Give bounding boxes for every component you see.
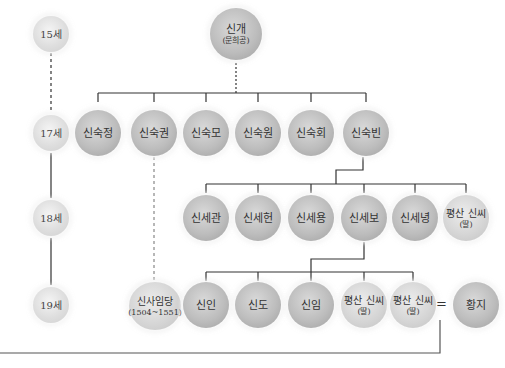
person-name: 신세헌 bbox=[243, 212, 273, 225]
family-tree-diagram: 15세 17세 18세 19세 신개 (문희공) 신숙정 신숙권 신숙모 신숙원… bbox=[0, 0, 505, 368]
generation-18: 18세 bbox=[33, 200, 69, 236]
person-name: 신숙원 bbox=[243, 127, 273, 140]
person-gen17: 신숙모 bbox=[183, 110, 229, 156]
person-name: 신숙회 bbox=[296, 127, 326, 140]
person-name: 신세녕 bbox=[400, 212, 430, 225]
person-name: 황지 bbox=[466, 299, 486, 312]
person-gen18-daughter: 평산 신씨 (딸) bbox=[443, 195, 489, 241]
person-note: (딸) bbox=[357, 307, 370, 317]
person-name: 신개 bbox=[226, 23, 246, 36]
person-note: (문희공) bbox=[222, 36, 249, 46]
person-name: 신세보 bbox=[349, 212, 379, 225]
person-gen19: 신인 bbox=[183, 282, 229, 328]
generation-19: 19세 bbox=[33, 287, 69, 323]
person-note: (딸) bbox=[406, 307, 419, 317]
person-gen18: 신세보 bbox=[341, 195, 387, 241]
generation-label: 18세 bbox=[40, 212, 62, 225]
person-name: 신세관 bbox=[191, 212, 221, 225]
person-name: 신사임당 bbox=[137, 295, 173, 308]
person-name: 신숙정 bbox=[83, 127, 113, 140]
person-gen18: 신세용 bbox=[288, 195, 334, 241]
person-gen18: 신세헌 bbox=[235, 195, 281, 241]
person-name: 평산 신씨 bbox=[393, 294, 432, 307]
person-name: 신도 bbox=[248, 299, 268, 312]
person-name: 신세용 bbox=[296, 212, 326, 225]
person-name: 신숙권 bbox=[139, 127, 169, 140]
person-spouse-hwangji: 황지 bbox=[453, 282, 499, 328]
generation-label: 17세 bbox=[40, 127, 62, 140]
person-name: 신임 bbox=[301, 299, 321, 312]
person-gen19-daughter: 평산 신씨 (딸) bbox=[390, 282, 436, 328]
generation-label: 19세 bbox=[40, 299, 62, 312]
generation-15: 15세 bbox=[33, 16, 69, 52]
person-name: 신인 bbox=[196, 299, 216, 312]
person-name: 평산 신씨 bbox=[446, 207, 485, 220]
person-gen17: 신숙회 bbox=[288, 110, 334, 156]
person-name: 신숙모 bbox=[191, 127, 221, 140]
generation-17: 17세 bbox=[33, 115, 69, 151]
person-gen18: 신세녕 bbox=[392, 195, 438, 241]
person-name: 신숙빈 bbox=[351, 127, 381, 140]
person-gen19: 신임 bbox=[288, 282, 334, 328]
person-note: (1504~1551) bbox=[128, 308, 182, 318]
person-name: 평산 신씨 bbox=[344, 294, 383, 307]
person-gen17: 신숙빈 bbox=[343, 110, 389, 156]
person-note: (딸) bbox=[459, 220, 472, 230]
person-shin-saimdang: 신사임당 (1504~1551) bbox=[129, 282, 181, 330]
person-gen17: 신숙정 bbox=[75, 110, 121, 156]
generation-label: 15세 bbox=[40, 28, 62, 41]
person-gen19: 신도 bbox=[235, 282, 281, 328]
person-gen17: 신숙원 bbox=[235, 110, 281, 156]
person-gen17: 신숙권 bbox=[131, 110, 177, 156]
marriage-symbol: = bbox=[436, 296, 447, 311]
person-root: 신개 (문희공) bbox=[210, 8, 262, 60]
person-gen18: 신세관 bbox=[183, 195, 229, 241]
person-gen19-daughter: 평산 신씨 (딸) bbox=[341, 282, 387, 328]
